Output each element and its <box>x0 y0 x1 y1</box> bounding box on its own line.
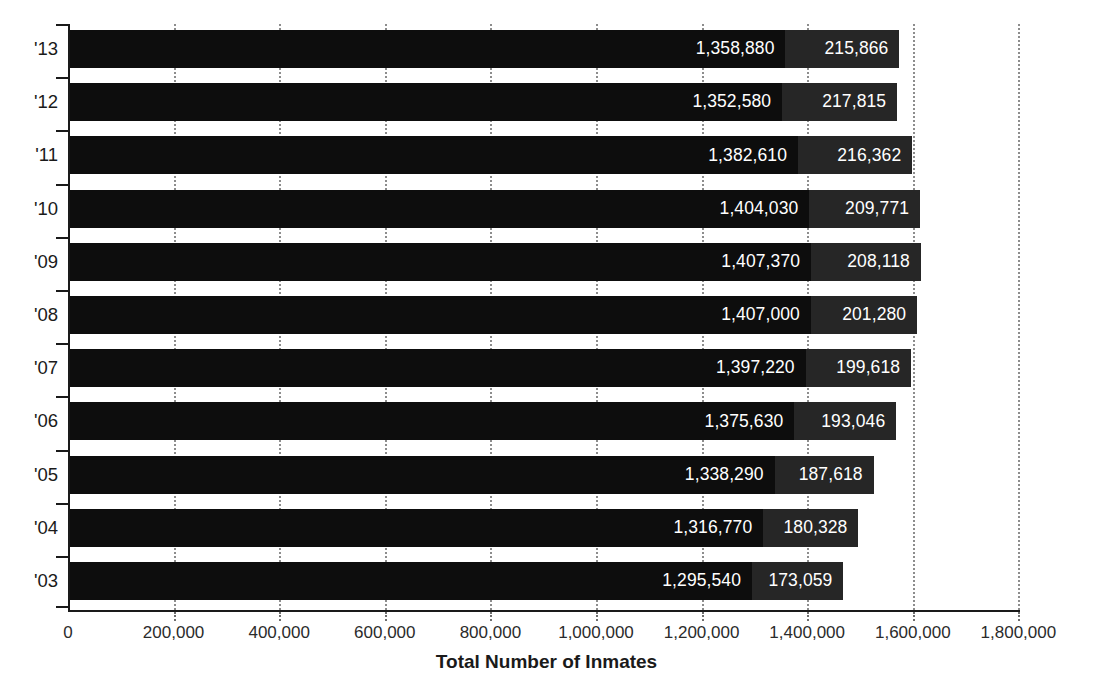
y-axis-category-label: '08 <box>8 306 58 325</box>
bar-value-label: 180,328 <box>783 519 858 537</box>
x-axis-tick <box>596 612 598 621</box>
bar-segment-secondary: 201,280 <box>811 296 917 334</box>
bar-row: 1,397,220199,618 <box>68 349 911 387</box>
bar-segment-secondary: 216,362 <box>798 136 912 174</box>
y-axis-tick <box>56 606 68 608</box>
y-axis-tick <box>56 503 68 505</box>
bar-segment-primary: 1,375,630 <box>68 402 794 440</box>
y-axis-tick <box>56 450 68 452</box>
bar-value-label: 199,618 <box>836 359 911 377</box>
bar-value-label: 208,118 <box>847 253 921 271</box>
x-axis-tick <box>913 612 915 621</box>
bar-row: 1,316,770180,328 <box>68 509 858 547</box>
x-axis-tick <box>279 612 281 621</box>
bar-value-label: 193,046 <box>821 413 896 431</box>
bar-segment-secondary: 199,618 <box>806 349 911 387</box>
y-axis-tick <box>56 24 68 26</box>
bar-segment-primary: 1,382,610 <box>68 136 798 174</box>
bar-value-label: 1,407,000 <box>721 306 811 324</box>
y-axis-tick <box>56 290 68 292</box>
y-axis-category-label: '04 <box>8 519 58 538</box>
bar-row: 1,407,370208,118 <box>68 243 921 281</box>
x-axis-tick-label: 0 <box>63 624 72 641</box>
y-axis-spine <box>68 24 70 610</box>
x-axis-tick-label: 1,200,000 <box>664 624 740 641</box>
bar-segment-primary: 1,338,290 <box>68 456 775 494</box>
bar-segment-primary: 1,358,880 <box>68 30 785 68</box>
bar-row: 1,407,000201,280 <box>68 296 917 334</box>
y-axis-tick <box>56 396 68 398</box>
bar-value-label: 1,397,220 <box>716 359 806 377</box>
y-axis-category-label: '13 <box>8 40 58 59</box>
x-axis-tick-label: 1,400,000 <box>769 624 845 641</box>
x-axis-spine <box>68 610 1020 612</box>
bar-row: 1,358,880215,866 <box>68 30 899 68</box>
y-axis-tick <box>56 556 68 558</box>
y-axis-category-label: '06 <box>8 412 58 431</box>
bar-value-label: 216,362 <box>837 147 912 165</box>
bar-value-label: 1,338,290 <box>685 466 775 484</box>
x-axis-tick <box>702 612 704 621</box>
x-axis-tick-label: 400,000 <box>248 624 309 641</box>
bar-value-label: 209,771 <box>845 200 920 218</box>
bar-segment-secondary: 193,046 <box>794 402 896 440</box>
y-axis-category-label: '09 <box>8 253 58 272</box>
bar-chart: '131,358,880215,866'121,352,580217,815'1… <box>0 0 1093 692</box>
x-axis-tick-label: 1,600,000 <box>875 624 951 641</box>
bar-value-label: 217,815 <box>822 93 897 111</box>
bar-value-label: 1,295,540 <box>662 572 752 590</box>
bar-segment-primary: 1,316,770 <box>68 509 763 547</box>
y-axis-category-label: '07 <box>8 359 58 378</box>
y-axis-tick <box>56 237 68 239</box>
y-axis-category-label: '03 <box>8 572 58 591</box>
x-axis-tick-label: 600,000 <box>354 624 415 641</box>
bar-row: 1,352,580217,815 <box>68 83 897 121</box>
bar-value-label: 1,358,880 <box>696 40 786 58</box>
y-axis-category-label: '12 <box>8 93 58 112</box>
bar-row: 1,404,030209,771 <box>68 190 920 228</box>
y-axis-category-label: '11 <box>8 146 58 165</box>
y-axis-tick <box>56 130 68 132</box>
bar-segment-secondary: 209,771 <box>809 190 920 228</box>
bar-segment-primary: 1,397,220 <box>68 349 806 387</box>
bar-row: 1,338,290187,618 <box>68 456 874 494</box>
bar-segment-secondary: 180,328 <box>763 509 858 547</box>
bar-value-label: 1,407,370 <box>721 253 811 271</box>
y-axis-tick <box>56 184 68 186</box>
bar-value-label: 1,316,770 <box>673 519 763 537</box>
bar-segment-primary: 1,407,370 <box>68 243 811 281</box>
bar-value-label: 201,280 <box>842 306 917 324</box>
x-axis-tick-label: 1,000,000 <box>558 624 634 641</box>
bar-value-label: 1,404,030 <box>720 200 810 218</box>
bar-value-label: 1,352,580 <box>692 93 782 111</box>
bar-segment-secondary: 215,866 <box>785 30 899 68</box>
bar-segment-secondary: 208,118 <box>811 243 921 281</box>
y-axis-tick <box>56 77 68 79</box>
y-axis-category-label: '10 <box>8 200 58 219</box>
bar-segment-secondary: 187,618 <box>775 456 874 494</box>
bar-value-label: 173,059 <box>768 572 843 590</box>
x-axis-title: Total Number of Inmates <box>0 652 1093 671</box>
bar-segment-primary: 1,352,580 <box>68 83 782 121</box>
x-axis-tick-label: 200,000 <box>143 624 204 641</box>
x-axis-tick <box>807 612 809 621</box>
x-axis-tick <box>385 612 387 621</box>
bar-value-label: 1,382,610 <box>708 147 798 165</box>
bar-segment-primary: 1,407,000 <box>68 296 811 334</box>
gridline <box>1018 24 1020 610</box>
bar-row: 1,375,630193,046 <box>68 402 896 440</box>
y-axis-tick <box>56 343 68 345</box>
x-axis-tick <box>1018 612 1020 621</box>
x-axis-tick-label: 1,800,000 <box>981 624 1057 641</box>
bar-segment-primary: 1,404,030 <box>68 190 809 228</box>
x-axis-tick-label: 800,000 <box>460 624 521 641</box>
x-axis-tick <box>490 612 492 621</box>
bar-value-label: 215,866 <box>824 40 899 58</box>
bar-segment-secondary: 217,815 <box>782 83 897 121</box>
bar-segment-primary: 1,295,540 <box>68 562 752 600</box>
bar-segment-secondary: 173,059 <box>752 562 843 600</box>
bar-row: 1,295,540173,059 <box>68 562 843 600</box>
bar-value-label: 1,375,630 <box>705 413 795 431</box>
x-axis-tick <box>174 612 176 621</box>
y-axis-category-label: '05 <box>8 466 58 485</box>
